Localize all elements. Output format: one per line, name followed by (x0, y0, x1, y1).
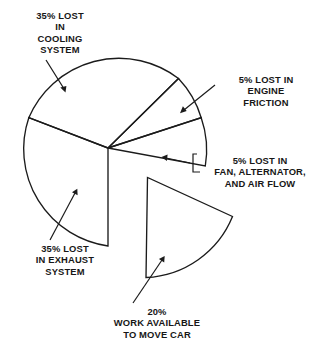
slice-label-work-available: 20% WORK AVAILABLE TO MOVE CAR (62, 306, 252, 340)
leader-exhaust (50, 189, 78, 240)
pie-slice-engine-friction (108, 79, 201, 149)
pie-slice-cooling (29, 58, 179, 148)
pie-slice-work-available (146, 178, 233, 278)
slice-label-cooling: 35% LOST IN COOLING SYSTEM (8, 10, 112, 56)
slice-label-engine-friction: 5% LOST IN ENGINE FRICTION (218, 74, 314, 108)
leader-work-available (133, 256, 165, 303)
leader-fan-alternator (162, 154, 201, 172)
slice-label-exhaust: 35% LOST IN EXHAUST SYSTEM (10, 243, 120, 277)
slice-label-fan-alternator: 5% LOST IN FAN, ALTERNATOR, AND AIR FLOW (203, 155, 317, 189)
pie-slice-exhaust (24, 118, 108, 246)
pie-slice-fan-alternator (108, 118, 207, 166)
